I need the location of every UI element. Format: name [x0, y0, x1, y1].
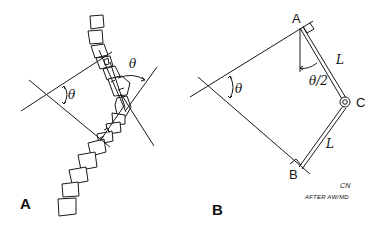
- point-c-label: C: [356, 96, 365, 109]
- b-theta-label: θ: [235, 83, 242, 95]
- b-angle-arc-theta: [230, 76, 233, 98]
- panel-a-label: A: [20, 196, 31, 211]
- a-theta-left-label: θ: [68, 89, 75, 101]
- point-b-label: B: [289, 168, 298, 181]
- spine-vertebrae: [58, 15, 131, 216]
- a-upper-line: [21, 52, 112, 111]
- pivot-c-outer: [340, 97, 350, 107]
- b-right-angle-a: [303, 23, 314, 33]
- a-right-line-2: [121, 94, 154, 146]
- b-half-theta-label: θ/2: [309, 75, 328, 87]
- segment-ac-label: L: [336, 54, 344, 66]
- segment-cb-label: L: [326, 138, 334, 150]
- point-a-label: A: [292, 12, 301, 25]
- panel-b-label: B: [212, 202, 223, 217]
- b-line-through-b: [198, 77, 310, 174]
- credit-initials: CN: [340, 182, 351, 189]
- a-theta-right-label: θ: [129, 58, 136, 70]
- credit-line: AFTER AW/MD: [305, 194, 349, 200]
- a-right-line-1: [126, 67, 157, 110]
